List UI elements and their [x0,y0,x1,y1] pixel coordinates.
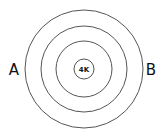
left-label-a: A [9,61,20,79]
concentric-circles-diagram: 4K A B [0,0,163,138]
center-label: 4K [79,66,90,74]
right-label-b: B [146,61,156,79]
